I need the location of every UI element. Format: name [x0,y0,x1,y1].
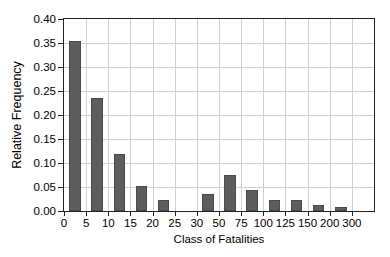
x-axis-tick-label: 30 [190,217,203,229]
x-axis-tick-label: 20 [146,217,159,229]
gridline-vertical [308,19,309,211]
x-axis-tick [153,211,154,216]
x-axis-tick-label: 5 [83,217,89,229]
gridline-vertical [285,19,286,211]
y-axis-tick-label: 0.30 [34,61,56,73]
x-axis-tick-label: 100 [254,217,273,229]
y-axis-tick [58,115,64,116]
bar [136,186,148,211]
y-axis-tick-label: 0.20 [34,109,56,121]
x-axis-tick [130,211,131,216]
bar [158,200,170,211]
gridline-vertical [130,19,131,211]
x-axis-tick [175,211,176,216]
x-axis-tick [241,211,242,216]
x-axis-title: Class of Fatalities [63,233,375,245]
y-axis-title-container: Relative Frequency [8,18,26,212]
gridline-vertical [153,19,154,211]
x-axis-tick [197,211,198,216]
bar [313,205,325,211]
chart-figure: Relative Frequency 0.000.050.100.150.200… [0,0,390,257]
bar [91,98,103,211]
gridline-vertical [86,19,87,211]
gridlines [64,19,374,211]
x-axis-tick [219,211,220,216]
plot-area: 0.000.050.100.150.200.250.300.350.400510… [63,18,375,212]
x-axis-tick-label: 125 [276,217,295,229]
y-axis-tick-label: 0.10 [34,157,56,169]
gridline-vertical [241,19,242,211]
x-axis-tick [308,211,309,216]
y-axis-tick [58,187,64,188]
bar [269,200,281,211]
y-axis-tick-label: 0.35 [34,37,56,49]
x-axis-tick-label: 200 [320,217,339,229]
bar [202,194,214,211]
y-axis-tick-label: 0.15 [34,133,56,145]
x-axis-tick-label: 15 [124,217,137,229]
x-axis-tick [285,211,286,216]
bar [335,207,347,211]
bar [246,190,258,211]
y-axis-tick [58,19,64,20]
x-axis-tick-label: 50 [213,217,226,229]
x-axis-tick-label: 10 [102,217,115,229]
x-axis-tick [108,211,109,216]
gridline-vertical [219,19,220,211]
bar [114,154,126,211]
x-axis-tick-label: 150 [298,217,317,229]
x-axis-tick-label: 300 [342,217,361,229]
bar [69,41,81,211]
y-axis-tick [58,91,64,92]
x-axis-tick [263,211,264,216]
x-axis-tick-label: 25 [168,217,181,229]
y-axis-tick-label: 0.05 [34,181,56,193]
y-axis-tick-label: 0.25 [34,85,56,97]
gridline-vertical [197,19,198,211]
gridline-vertical [330,19,331,211]
gridline-vertical [263,19,264,211]
bar [224,175,236,211]
x-axis-tick [86,211,87,216]
x-axis-tick [330,211,331,216]
x-axis-tick [352,211,353,216]
y-axis-tick [58,43,64,44]
x-axis-tick [64,211,65,216]
gridline-vertical [352,19,353,211]
y-axis-title: Relative Frequency [8,18,26,212]
bar [291,200,303,211]
y-axis-tick [58,139,64,140]
x-axis-tick-label: 0 [61,217,67,229]
y-axis-tick-label: 0.00 [34,205,56,217]
x-axis-tick-label: 75 [235,217,248,229]
y-axis-tick [58,67,64,68]
gridline-vertical [108,19,109,211]
y-axis-tick-label: 0.40 [34,13,56,25]
y-axis-tick [58,163,64,164]
gridline-vertical [175,19,176,211]
